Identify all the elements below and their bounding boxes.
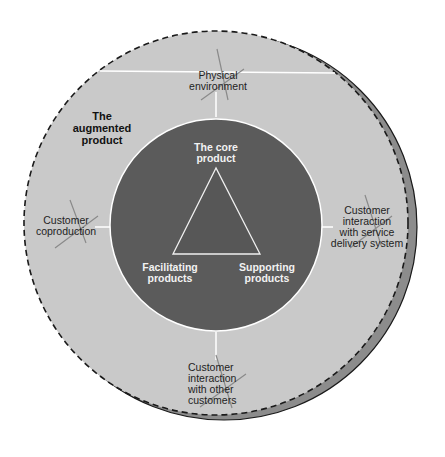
label-line: products <box>130 273 210 284</box>
label-line: product <box>62 134 142 146</box>
augmented-product-label: The augmented product <box>62 110 142 146</box>
label-line: environment <box>176 81 260 92</box>
label-line: customers <box>188 395 248 406</box>
label-line: delivery system <box>324 238 410 249</box>
core-product-label: The core product <box>176 142 256 164</box>
physical-environment-label: Physical environment <box>176 70 260 92</box>
supporting-products-label: Supporting products <box>226 262 308 284</box>
customer-interaction-others-label: Customer interaction with other customer… <box>188 362 248 406</box>
label-line: The <box>62 110 142 122</box>
label-line: products <box>226 273 308 284</box>
label-line: augmented <box>62 122 142 134</box>
facilitating-products-label: Facilitating products <box>130 262 210 284</box>
label-line: coproduction <box>30 226 102 237</box>
label-line: product <box>176 153 256 164</box>
customer-interaction-service-label: Customer interaction with service delive… <box>324 205 410 249</box>
customer-coproduction-label: Customer coproduction <box>30 215 102 237</box>
